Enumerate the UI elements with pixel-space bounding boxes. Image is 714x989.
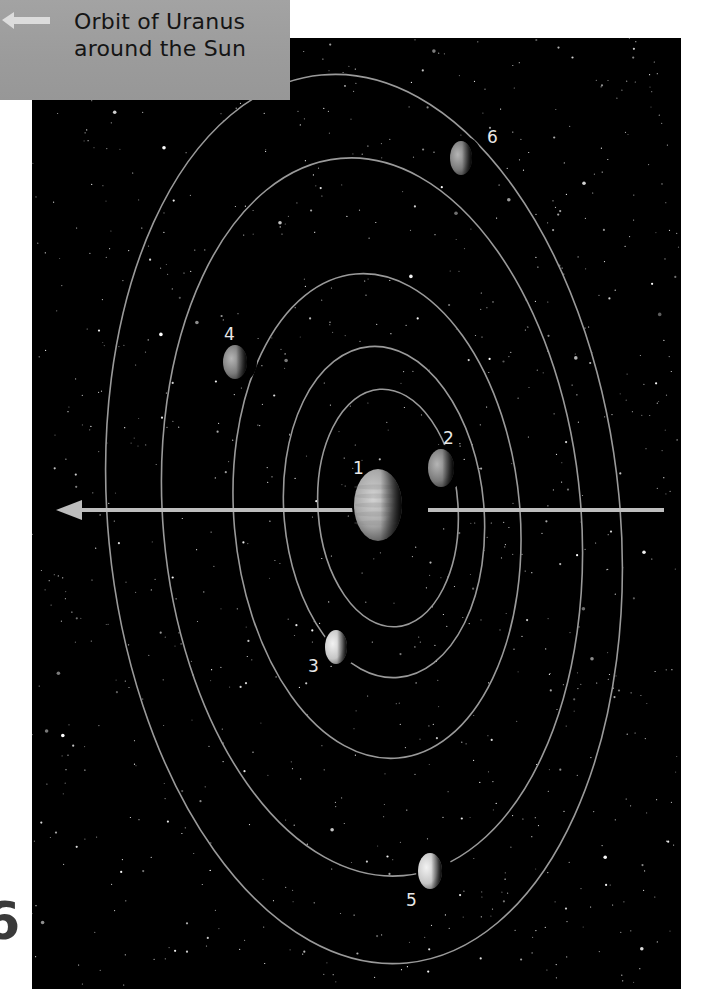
star <box>128 687 129 688</box>
star <box>91 579 92 580</box>
star <box>359 210 360 211</box>
star <box>440 577 441 578</box>
star <box>335 802 336 803</box>
star <box>665 493 666 494</box>
star <box>623 901 624 902</box>
star <box>516 721 517 722</box>
star <box>419 739 420 740</box>
star <box>75 486 77 488</box>
star <box>475 335 476 336</box>
star <box>470 817 471 818</box>
star <box>609 674 610 675</box>
star <box>663 477 664 478</box>
star <box>374 977 375 978</box>
star <box>58 575 59 576</box>
star <box>643 890 644 891</box>
star <box>165 958 166 959</box>
star <box>355 83 356 84</box>
star <box>210 842 211 843</box>
star <box>274 560 275 561</box>
star <box>262 404 263 405</box>
star <box>87 328 88 329</box>
star <box>499 184 500 185</box>
star <box>513 649 514 650</box>
star <box>582 182 586 186</box>
star <box>267 482 268 483</box>
star <box>166 427 167 428</box>
star <box>639 968 640 969</box>
star <box>306 456 307 457</box>
star <box>528 152 529 153</box>
star <box>403 371 404 372</box>
star <box>674 276 676 278</box>
star <box>552 229 554 231</box>
star <box>199 800 201 802</box>
star <box>627 374 628 375</box>
star <box>633 597 635 599</box>
star <box>247 640 249 642</box>
star <box>269 521 270 522</box>
star <box>98 451 99 452</box>
star <box>376 935 378 937</box>
star <box>257 425 258 426</box>
star <box>130 817 131 818</box>
star <box>312 641 313 642</box>
star <box>321 558 322 559</box>
star <box>596 682 597 683</box>
star <box>240 103 241 104</box>
star <box>206 945 207 946</box>
star <box>302 954 303 955</box>
star <box>191 661 192 662</box>
star <box>460 446 461 447</box>
star <box>460 135 461 136</box>
star <box>399 703 400 704</box>
star <box>585 218 586 219</box>
star <box>615 675 616 676</box>
star <box>441 186 443 188</box>
star <box>456 239 457 240</box>
star <box>341 184 342 185</box>
page-number-fragment: 6 <box>0 895 20 947</box>
star <box>671 371 672 372</box>
star <box>437 680 438 681</box>
star <box>633 48 635 50</box>
star <box>31 913 32 914</box>
star <box>561 462 562 463</box>
star <box>215 380 217 382</box>
star <box>606 569 607 570</box>
label-6: 6 <box>487 127 498 147</box>
star <box>293 901 294 902</box>
star <box>635 732 636 733</box>
star <box>332 332 333 333</box>
star <box>608 297 610 299</box>
star <box>135 765 136 766</box>
star <box>367 402 368 403</box>
star <box>346 216 347 217</box>
star <box>106 257 107 258</box>
star <box>114 521 115 522</box>
star <box>556 709 557 710</box>
star <box>448 791 449 792</box>
star <box>433 724 434 725</box>
star <box>309 317 311 319</box>
star <box>106 624 107 625</box>
star <box>388 430 389 431</box>
star <box>626 81 627 82</box>
star <box>553 136 555 138</box>
uranus: 1 <box>352 458 412 545</box>
star <box>344 458 345 459</box>
star <box>344 823 345 824</box>
star <box>443 614 444 615</box>
star <box>468 359 470 361</box>
star <box>244 940 245 941</box>
star <box>481 891 482 892</box>
star <box>355 444 356 445</box>
star <box>444 53 445 54</box>
star <box>620 932 621 933</box>
star <box>350 119 351 120</box>
star <box>615 819 616 820</box>
star <box>300 336 301 337</box>
star <box>57 113 58 114</box>
star <box>541 533 542 534</box>
star <box>505 879 506 880</box>
